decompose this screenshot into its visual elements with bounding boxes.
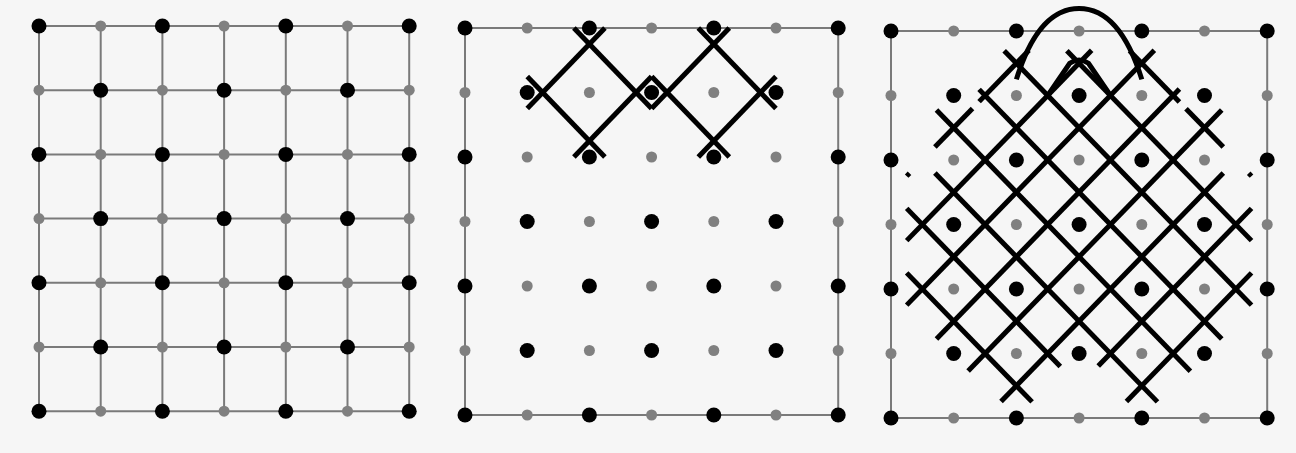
kolam-lattice-lines	[907, 8, 1252, 401]
black-dot	[884, 411, 899, 426]
gray-dot	[886, 219, 897, 230]
gray-dot	[1262, 348, 1273, 359]
black-dot	[1009, 24, 1024, 39]
gray-dot	[1199, 26, 1210, 37]
gray-dot	[1136, 90, 1147, 101]
gray-dot	[1199, 155, 1210, 166]
gray-dot	[948, 26, 959, 37]
gray-dot	[948, 413, 959, 424]
black-dot	[1009, 411, 1024, 426]
gray-dot	[1074, 26, 1085, 37]
gray-dot	[1199, 284, 1210, 295]
gray-dot	[948, 155, 959, 166]
gray-dot	[1262, 219, 1273, 230]
gray-dot	[1011, 348, 1022, 359]
gray-dot	[1074, 155, 1085, 166]
black-dot	[946, 217, 961, 232]
black-dot	[1009, 153, 1024, 168]
gray-dot	[1199, 413, 1210, 424]
panel-completed-pattern	[0, 0, 1296, 453]
gray-dot	[1074, 413, 1085, 424]
gray-dot	[1074, 284, 1085, 295]
dot-lattice	[884, 24, 1275, 426]
kolam-diagram-figure	[0, 0, 1296, 453]
black-dot	[1134, 282, 1149, 297]
black-dot	[1134, 153, 1149, 168]
gray-dot	[1136, 219, 1147, 230]
gray-dot	[1011, 90, 1022, 101]
gray-dot	[1262, 90, 1273, 101]
gray-dot	[886, 348, 897, 359]
black-dot	[1197, 217, 1212, 232]
black-dot	[946, 346, 961, 361]
gray-dot	[886, 90, 897, 101]
black-dot	[1134, 411, 1149, 426]
black-dot	[884, 282, 899, 297]
black-dot	[1072, 217, 1087, 232]
black-dot	[1197, 88, 1212, 103]
black-dot	[1260, 24, 1275, 39]
gray-dot	[948, 284, 959, 295]
black-dot	[1260, 282, 1275, 297]
black-dot	[884, 24, 899, 39]
gray-dot	[1011, 219, 1022, 230]
black-dot	[946, 88, 961, 103]
completed-kolam-pattern	[0, 0, 1296, 453]
black-dot	[1260, 153, 1275, 168]
black-dot	[1134, 24, 1149, 39]
black-dot	[1260, 411, 1275, 426]
black-dot	[1197, 346, 1212, 361]
black-dot	[1009, 282, 1024, 297]
black-dot	[884, 153, 899, 168]
black-dot	[1072, 88, 1087, 103]
gray-dot	[1136, 348, 1147, 359]
black-dot	[1072, 346, 1087, 361]
outer-arch-loop	[1016, 8, 1141, 79]
